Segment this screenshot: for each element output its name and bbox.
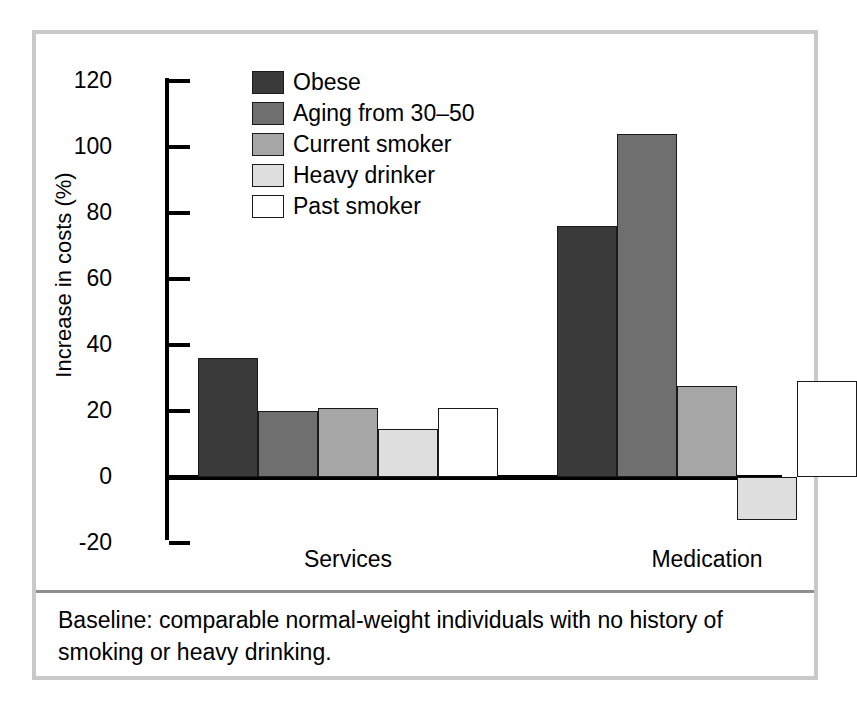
legend-swatch-icon-obese [252,71,284,94]
legend-label-obese: Obese [293,71,361,94]
bar-services-aging-from-30-50 [258,411,318,477]
legend-swatch-icon-past-smoker [252,195,284,218]
y-axis-tick [169,145,190,149]
y-axis-tick-label: 0 [99,465,112,488]
legend-label-current-smoker: Current smoker [293,133,451,156]
y-axis-tick [169,343,190,347]
figure-panel: Increase in costs (%) -20020406080100120… [32,30,818,680]
legend-swatch-icon-current-smoker [252,133,284,156]
bar-medication-heavy-drinker [737,477,797,520]
legend-item-heavy-drinker[interactable]: Heavy drinker [252,160,475,191]
chart-legend: ObeseAging from 30–50Current smokerHeavy… [252,67,475,222]
caption-divider [36,590,814,593]
legend-label-past-smoker: Past smoker [293,195,421,218]
y-axis-tick-label: 60 [86,267,112,290]
legend-item-obese[interactable]: Obese [252,67,475,98]
legend-item-past-smoker[interactable]: Past smoker [252,191,475,222]
y-axis-tick [169,277,190,281]
legend-label-aging-from-30-50: Aging from 30–50 [293,102,475,125]
y-axis-tick-label: 20 [86,399,112,422]
y-axis-title: Increase in costs (%) [51,155,77,395]
bar-services-obese [198,358,258,477]
y-axis-tick-label: -20 [79,531,112,554]
bar-medication-past-smoker [797,381,857,477]
bar-services-current-smoker [318,408,378,477]
x-axis-label-services: Services [198,546,498,573]
legend-swatch-icon-aging-from-30-50 [252,102,284,125]
y-axis-tick [169,211,190,215]
bar-medication-current-smoker [677,386,737,477]
bar-services-heavy-drinker [378,429,438,477]
bar-services-past-smoker [438,408,498,477]
figure-caption: Baseline: comparable normal-weight indiv… [58,604,758,668]
chart-plot-area: Increase in costs (%) -20020406080100120… [36,34,814,590]
legend-item-current-smoker[interactable]: Current smoker [252,129,475,160]
y-axis-tick [169,541,190,545]
legend-item-aging-from-30-50[interactable]: Aging from 30–50 [252,98,475,129]
bar-medication-obese [557,226,617,477]
y-axis-tick-label: 120 [74,69,112,92]
legend-label-heavy-drinker: Heavy drinker [293,164,435,187]
y-axis-tick [169,475,190,479]
y-axis-tick [169,409,190,413]
legend-swatch-icon-heavy-drinker [252,164,284,187]
x-axis-label-medication: Medication [557,546,857,573]
y-axis-tick-label: 100 [74,135,112,158]
y-axis-tick-label: 80 [86,201,112,224]
y-axis-tick [169,79,190,83]
y-axis-tick-label: 40 [86,333,112,356]
bar-medication-aging-from-30-50 [617,134,677,477]
